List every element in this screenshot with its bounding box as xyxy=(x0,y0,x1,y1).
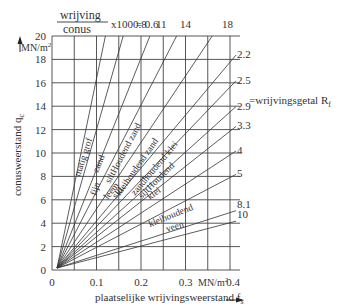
cone-resistance-chart: 02468101214161820 00.10.20.30.4 2.22.52.… xyxy=(0,0,342,307)
fraction-denominator: conus xyxy=(63,22,91,36)
zone-label-matig-grof: matig grof xyxy=(72,136,94,178)
rf-caption: =wrijvingsgetal Rf xyxy=(249,94,331,109)
rf-label: 10 xyxy=(237,208,249,220)
y-tick-label: 14 xyxy=(35,100,47,112)
rf-label: 5 xyxy=(237,167,243,179)
y-tick-label: 18 xyxy=(35,53,47,65)
rf-label: 4 xyxy=(237,144,243,156)
rf-right-labels: 2.22.52.93.3458.110 xyxy=(237,48,251,220)
x-axis-unit: MN/m2 xyxy=(198,276,229,288)
rf-label: 2.5 xyxy=(237,74,251,86)
y-tick-label: 2 xyxy=(41,241,47,253)
y-tick-label: 0 xyxy=(41,264,47,276)
top-label-11: 11 xyxy=(156,18,167,30)
top-label-14: 14 xyxy=(180,18,192,30)
rf-label: 2.2 xyxy=(237,48,251,60)
ray-rf-1-4 xyxy=(57,36,177,268)
ray-rf-1-1 xyxy=(57,36,150,268)
zone-label-zand: zand xyxy=(91,153,107,174)
y-tick-label: 12 xyxy=(35,124,46,136)
top-label-18: 18 xyxy=(222,18,234,30)
fraction-numerator: wrijving xyxy=(60,8,101,22)
top-label-0-8: 0.8 xyxy=(133,18,147,30)
y-tick-label: 10 xyxy=(35,147,47,159)
y-tick-label: 4 xyxy=(41,217,47,229)
x-tick-label: 0.4 xyxy=(226,276,240,288)
x-tick-label: 0.2 xyxy=(134,276,148,288)
x-tick-label: 0.1 xyxy=(90,276,104,288)
y-axis-title: conusweerstand qc xyxy=(11,114,26,197)
x-tick-label: 0.3 xyxy=(179,276,193,288)
y-tick-label: 16 xyxy=(35,77,47,89)
y-tick-labels: 02468101214161820 xyxy=(35,30,47,276)
y-tick-label: 8 xyxy=(41,170,47,182)
y-tick-label: 20 xyxy=(35,30,47,42)
rf-label: 3.3 xyxy=(237,119,251,131)
y-tick-label: 6 xyxy=(41,194,47,206)
x-tick-label: 0 xyxy=(49,276,55,288)
y-axis-unit: MN/m2 xyxy=(21,41,52,53)
zone-label-fijn: fijn xyxy=(88,181,102,197)
x-axis-title: plaatselijke wrijvingsweerstand fs xyxy=(95,291,244,306)
